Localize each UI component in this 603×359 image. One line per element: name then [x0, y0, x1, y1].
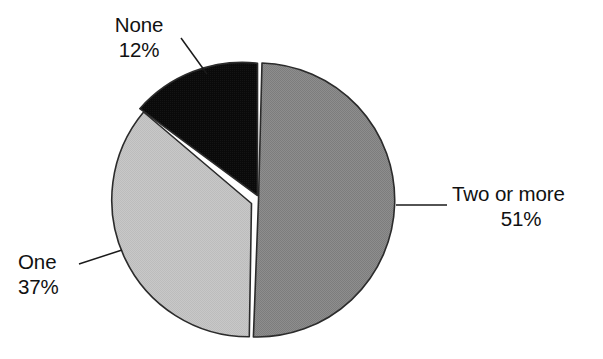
pie-label-one-percent: 37% — [18, 274, 108, 299]
pie-label-one: One 37% — [18, 249, 108, 299]
pie-label-none-name: None — [96, 12, 182, 37]
pie-chart-graphic — [0, 0, 603, 359]
pie-label-two-or-more-name: Two or more — [452, 181, 602, 206]
pie-label-two-or-more-percent: 51% — [452, 206, 590, 231]
pie-label-two-or-more: Two or more 51% — [452, 181, 602, 231]
pie-label-none: None 12% — [96, 12, 182, 62]
pie-label-none-percent: 12% — [96, 37, 182, 62]
pie-chart: None 12% Two or more 51% One 37% — [0, 0, 603, 359]
pie-label-one-name: One — [18, 249, 108, 274]
pie-slice-two-or-more[interactable] — [253, 63, 394, 337]
leader-line-none — [181, 38, 207, 74]
